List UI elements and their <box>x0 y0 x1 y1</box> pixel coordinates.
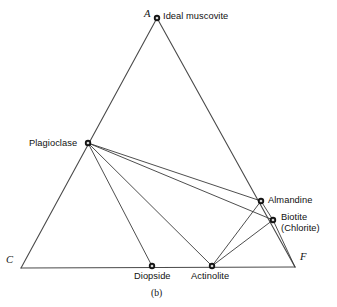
point-label-actinolite: Actinolite <box>191 271 229 281</box>
marker-actinolite[interactable] <box>209 263 215 269</box>
marker-biotite[interactable] <box>270 217 276 223</box>
marker-ideal-muscovite[interactable] <box>154 15 160 21</box>
point-label-biotite-line1: Biotite <box>281 212 320 223</box>
triangle-edge-A-F <box>157 18 295 267</box>
vertex-label-F: F <box>300 252 307 262</box>
figure-caption: (b) <box>151 287 162 298</box>
tieline-plagioclase-biotite <box>88 143 273 220</box>
triangle-edge-C-F <box>21 267 295 268</box>
point-label-ideal-muscovite: Ideal muscovite <box>163 11 228 21</box>
point-label-almandine: Almandine <box>268 195 312 205</box>
tieline-biotite-actinolite <box>212 220 273 266</box>
tieline-almandine-actinolite <box>212 201 261 266</box>
marker-plagioclase[interactable] <box>85 140 91 146</box>
acf-diagram-svg <box>0 0 337 307</box>
ternary-diagram: A C F Ideal muscovite Plagioclase Almand… <box>0 0 337 307</box>
vertex-label-C: C <box>6 255 13 265</box>
point-label-plagioclase: Plagioclase <box>29 138 77 148</box>
marker-almandine[interactable] <box>258 198 264 204</box>
marker-diopside[interactable] <box>149 263 155 269</box>
point-label-biotite: Biotite (Chlorite) <box>281 212 320 233</box>
point-label-chlorite-line2: (Chlorite) <box>281 223 320 234</box>
tieline-plagioclase-actinolite <box>88 143 212 266</box>
point-label-diopside: Diopside <box>134 271 171 281</box>
vertex-label-A: A <box>144 9 151 19</box>
